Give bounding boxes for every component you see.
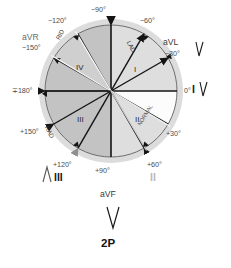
- angle-label-minus150: −150°: [22, 44, 41, 51]
- angle-label-minus30: −30°: [165, 50, 180, 57]
- angle-label-minus90: −90°: [91, 6, 106, 13]
- quadrant-label-I: I: [134, 66, 136, 74]
- lead-label-aVF: aVF: [100, 190, 116, 199]
- quadrant-label-IV: IV: [76, 64, 84, 72]
- qrs-glyph-aVL: [196, 42, 203, 56]
- angle-label-plus180: ∓180°: [12, 87, 32, 94]
- angle-label-plus30: +30°: [166, 130, 181, 137]
- qrs-glyph-leadI: [200, 82, 207, 96]
- angle-label-plus120: +120°: [53, 161, 72, 168]
- qrs-glyph-aVF: [107, 207, 119, 228]
- angle-label-zero: 0°: [184, 87, 191, 94]
- lead-label-II: II: [150, 172, 156, 183]
- lead-label-I: I: [192, 84, 195, 95]
- figure-caption: 2P: [101, 238, 115, 250]
- angle-label-plus60: +60°: [147, 161, 162, 168]
- lead-label-aVR: aVR: [22, 33, 39, 42]
- qrs-glyph-leadIII: [43, 167, 51, 182]
- quadrant-label-III: III: [77, 116, 84, 124]
- angle-label-minus60: −60°: [140, 17, 155, 24]
- angle-label-minus120: −120°: [48, 17, 67, 24]
- angle-label-plus150: +150°: [20, 128, 39, 135]
- figure-canvas: −90° −120° −60° −150° −30° ∓180° 0° +150…: [0, 0, 231, 268]
- lead-label-aVL: aVL: [163, 38, 178, 47]
- lead-label-III: III: [54, 172, 63, 183]
- angle-label-plus90: +90°: [95, 167, 110, 174]
